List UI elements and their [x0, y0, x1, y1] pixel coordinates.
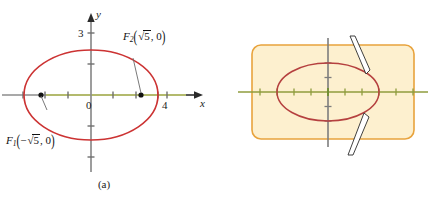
focus-point-f2 [138, 92, 143, 97]
figure-root: 3 0 4 y x F2(√5, 0) F1(−√5, 0) (a) [0, 0, 445, 200]
y-axis-label: y [96, 8, 101, 20]
focus-label-f1: F1(−√5, 0) [6, 134, 55, 148]
leader-line-f1 [41, 96, 47, 110]
focus-label-f2-name: F [123, 30, 130, 42]
panel-a-caption: (a) [74, 178, 134, 190]
y-tick-label-3: 3 [78, 27, 84, 39]
focus-label-f2-radical-group: √5 [137, 30, 151, 42]
x-axis-panel-a [2, 91, 203, 99]
y-axis-panel-a [87, 13, 94, 172]
x-axis-label: x [200, 97, 205, 109]
focus-label-f1-open-paren: ( [16, 133, 20, 149]
focus-label-f1-name: F [6, 134, 13, 146]
origin-label: 0 [86, 99, 92, 111]
panel-b-plot [222, 0, 445, 200]
panel-a-plot [0, 0, 222, 200]
focus-label-f1-rest: , 0 [40, 134, 51, 146]
focus-label-f2-close-paren: ) [162, 29, 166, 45]
panel-a: 3 0 4 y x F2(√5, 0) F1(−√5, 0) (a) [0, 0, 222, 200]
focus-label-f1-radicand: 5 [32, 134, 40, 146]
x-tick-label-4: 4 [162, 99, 168, 111]
focus-label-f1-radical-group: √5 [26, 134, 40, 146]
focus-label-f2-radicand: 5 [143, 30, 151, 42]
focus-label-f2-rest: , 0 [151, 30, 162, 42]
focus-label-f2: F2(√5, 0) [123, 30, 165, 44]
focus-label-f1-close-paren: ) [51, 133, 55, 149]
panel-b: 3.1 -3.1 -4.7 4.7 y = 2√1 − x2/9 y = −2√… [222, 0, 445, 200]
